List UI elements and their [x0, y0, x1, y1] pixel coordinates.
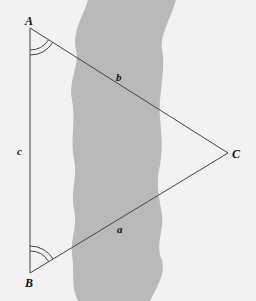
side-b-label: b — [116, 72, 122, 83]
vertex-b-label: B — [25, 277, 33, 289]
angle-b-arc-outer — [30, 246, 53, 259]
side-a-label: a — [117, 224, 123, 235]
angle-a-arc-inner — [30, 40, 49, 50]
side-c-label: c — [17, 146, 22, 157]
river-band — [71, 0, 176, 301]
vertex-a-label: A — [25, 15, 33, 27]
vertex-c-label: C — [232, 148, 240, 160]
angle-b-arc-inner — [30, 251, 49, 262]
angle-a-arc-outer — [30, 42, 53, 55]
triangle-diagram — [0, 0, 256, 301]
